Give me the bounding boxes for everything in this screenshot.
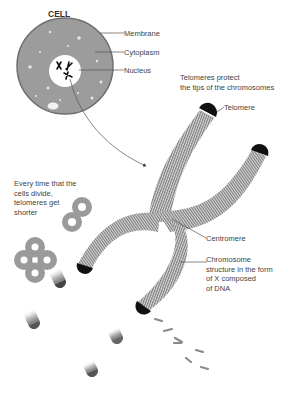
division-line1: Every time that the [14,179,77,189]
division-line3: telomeres get [14,198,77,208]
telomere-label: Telomere [224,103,255,112]
vacuole [48,103,59,110]
membrane-label: Membrane [124,29,160,38]
telomere-caption-line1: Telomeres protect [180,73,274,83]
nucleus-label: Nucleus [124,66,151,75]
dividing-cell-four [14,237,57,283]
chromosome-line1: Chromosome [206,255,273,265]
division-caption: Every time that the cells divide, telome… [14,179,77,217]
dna-fragments [155,319,208,369]
chromosome-line3: of X composed [206,274,273,284]
centromere-label: Centromere [206,234,246,243]
chromosome-caption: Chromosome structure in the form of X co… [206,255,273,293]
telomere-caption-line2: the tips of the chromosomes [180,83,274,93]
division-line4: shorter [14,208,77,218]
shortening-telomeres [23,267,125,379]
nucleus [49,55,81,87]
cell [17,18,113,114]
cytoplasm-label: Cytoplasm [124,48,159,57]
telomere-caption: Telomeres protect the tips of the chromo… [180,73,274,92]
chromosome-line4: of DNA [206,284,273,294]
cell-title: CELL [48,9,70,19]
chromosome-line2: structure in the form [206,265,273,275]
division-line2: cells divide, [14,189,77,199]
